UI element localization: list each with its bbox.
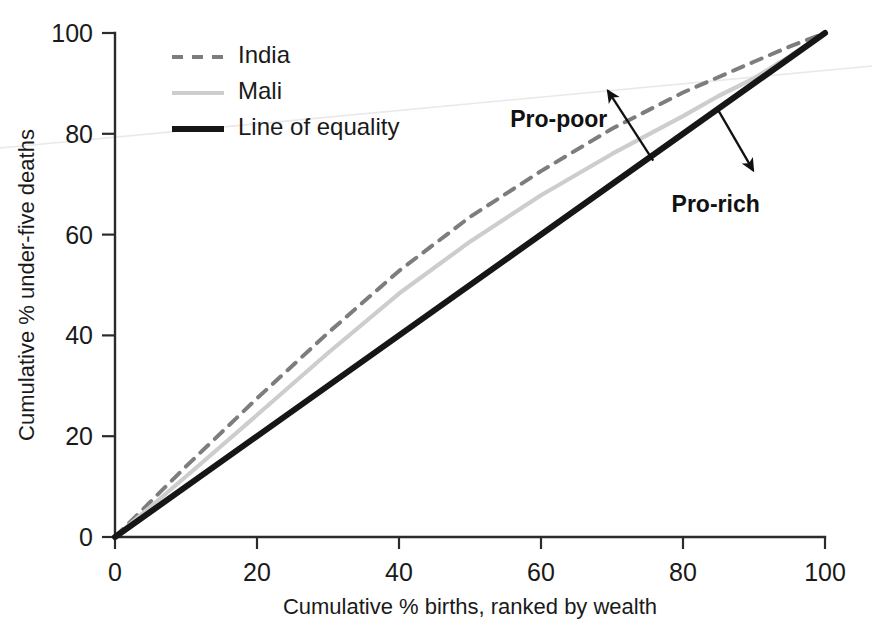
y-tick-label: 0 <box>79 523 93 551</box>
series-line-line-of-equality <box>115 33 825 537</box>
concentration-curve-chart: 020406080100 020406080100 Pro-poorPro-ri… <box>0 0 872 636</box>
x-tick-label: 80 <box>669 558 697 586</box>
x-tick-label: 100 <box>804 558 846 586</box>
x-tick-label: 0 <box>108 558 122 586</box>
annotation-label: Pro-rich <box>672 191 760 217</box>
legend-label-line-of-equality: Line of equality <box>238 113 399 140</box>
x-tick-label: 40 <box>385 558 413 586</box>
x-tick-label: 60 <box>527 558 555 586</box>
legend-label-india: India <box>238 41 291 68</box>
scan-artifact-lines <box>0 66 872 148</box>
x-tick-label: 20 <box>243 558 271 586</box>
x-axis-title: Cumulative % births, ranked by wealth <box>283 594 657 619</box>
y-tick-label: 20 <box>65 422 93 450</box>
y-axis-ticks: 020406080100 <box>51 19 115 551</box>
chart-series <box>115 33 825 537</box>
y-tick-label: 100 <box>51 19 93 47</box>
annotation-arrow <box>719 111 754 171</box>
annotation-label: Pro-poor <box>510 106 607 132</box>
y-axis-title: Cumulative % under-five deaths <box>14 129 39 441</box>
scan-artifact-diagonal <box>0 66 872 148</box>
y-tick-label: 60 <box>65 221 93 249</box>
x-axis-ticks: 020406080100 <box>108 537 846 586</box>
y-tick-label: 80 <box>65 120 93 148</box>
y-tick-label: 40 <box>65 321 93 349</box>
chart-container: 020406080100 020406080100 Pro-poorPro-ri… <box>0 0 872 636</box>
chart-legend: IndiaMaliLine of equality <box>172 41 399 140</box>
legend-label-mali: Mali <box>238 77 282 104</box>
